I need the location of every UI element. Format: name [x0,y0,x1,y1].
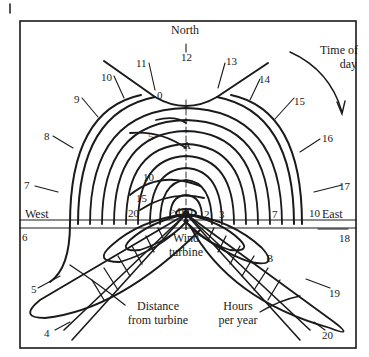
hour-label-15: 15 [294,96,305,107]
hours-label-line2: per year [206,314,270,327]
hours-label-line1: Hours [206,300,270,313]
hour-label-10: 10 [101,72,112,83]
contour-label-7: 7 [272,209,278,220]
west-label: West [25,208,49,221]
hour-label-7: 7 [24,180,30,191]
hour-label-13: 13 [226,56,237,67]
time-of-day-label-line1: Time of [300,44,358,57]
hour-label-11: 11 [136,58,147,69]
distance-label-line1: Distance [118,300,198,313]
turbine-label-line1: Wind [161,232,211,245]
contour-label-gt100: >100 [170,206,193,217]
east-label: East [322,208,343,221]
hour-label-12: 12 [181,52,192,63]
contour-label-5: 5 [148,131,154,142]
contour-label-2: 2 [204,209,210,220]
hour-label-20: 20 [322,330,333,341]
hour-label-18: 18 [339,233,350,244]
hour-label-17: 17 [339,181,350,192]
hour-label-14: 14 [259,74,270,85]
contour-label-15: 15 [136,193,147,204]
point-b-label: B [266,253,273,264]
hour-label-8: 8 [44,131,50,142]
hour-label-5: 5 [31,284,37,295]
time-of-day-label-line2: day [300,58,357,71]
hour-label-4: 4 [44,328,50,339]
contour-label-10-east: 10 [309,208,320,219]
contour-label-0: 0 [157,90,163,101]
contour-label-20: 20 [128,208,139,219]
contour-label-10: 10 [143,172,154,183]
north-label: North [171,24,199,37]
turbine-label-line2: turbine [161,246,211,259]
hour-label-19: 19 [329,288,340,299]
hour-label-6: 6 [22,232,28,243]
distance-label-line2: from turbine [118,314,198,327]
hour-label-9: 9 [74,94,80,105]
point-a-label: A [183,140,191,151]
hour-label-16: 16 [322,133,333,144]
contour-label-3: 3 [219,209,225,220]
